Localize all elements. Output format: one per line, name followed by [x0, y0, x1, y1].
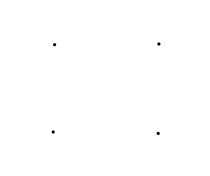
panel-bottom-right-canvas: [105, 88, 210, 176]
panel-bottom-right-center-dot: [157, 132, 160, 135]
panel-top-right-center-dot: [157, 42, 160, 45]
panel-bottom-left-reuleaux-triangle: [24, 102, 80, 156]
panel-bottom-left-canvas: [0, 88, 105, 176]
panel-top-right-canvas: [105, 0, 210, 88]
panel-bottom-left: [0, 88, 105, 176]
panel-bottom-right: [105, 88, 210, 176]
panel-top-left-canvas: [0, 0, 105, 88]
figure-grid: [0, 0, 210, 176]
panel-top-left-reuleaux-triangle: [27, 14, 83, 67]
panel-top-left-center-dot: [53, 43, 56, 46]
panel-bottom-left-center-dot: [52, 130, 55, 133]
panel-top-right: [105, 0, 210, 88]
panel-top-left: [0, 0, 105, 88]
panel-bottom-right-reuleaux-triangle: [130, 111, 186, 164]
panel-top-right-reuleaux-triangle: [130, 20, 186, 74]
